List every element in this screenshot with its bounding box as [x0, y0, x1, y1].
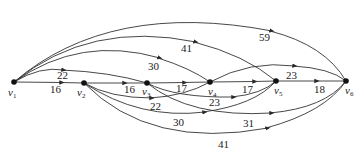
weight-v2-v5: 30 — [173, 116, 185, 128]
node-v5 — [273, 78, 279, 84]
label-v6: v6 — [345, 84, 354, 98]
node-v6 — [343, 78, 349, 84]
weight-v1-v6: 59 — [259, 31, 271, 43]
edge-v1-v5 — [14, 36, 196, 82]
weight-v4-v5: 17 — [242, 83, 254, 95]
weight-v2-v3: 16 — [124, 83, 136, 95]
node-v1 — [11, 79, 17, 85]
edge-v3-v5 — [147, 83, 234, 97]
weight-v1-v4: 30 — [148, 60, 160, 72]
weight-v4-v6: 23 — [286, 69, 298, 81]
edge-v4-v6 — [210, 65, 295, 82]
weight-v1-v2: 16 — [50, 83, 62, 95]
label-v5: v5 — [274, 84, 283, 98]
weight-v1-v3: 22 — [57, 69, 68, 81]
label-v2: v2 — [77, 86, 86, 100]
directed-graph: 16 22 30 41 59 16 22 30 41 17 23 31 17 2… — [0, 0, 361, 158]
node-v2 — [81, 80, 87, 86]
weight-v5-v6: 18 — [314, 83, 326, 95]
label-v4: v4 — [208, 85, 217, 99]
weight-v2-v4: 22 — [150, 100, 161, 112]
weight-v2-v6: 41 — [218, 138, 229, 150]
label-v1: v1 — [8, 86, 17, 100]
weight-v3-v6: 31 — [243, 117, 254, 129]
node-v4 — [207, 79, 213, 85]
label-v3: v3 — [142, 85, 151, 99]
weight-v3-v4: 17 — [176, 82, 188, 94]
edge-v4-v5 — [210, 82, 255, 83]
weight-v1-v5: 41 — [181, 42, 192, 54]
edge-v1-v6 — [14, 22, 272, 82]
